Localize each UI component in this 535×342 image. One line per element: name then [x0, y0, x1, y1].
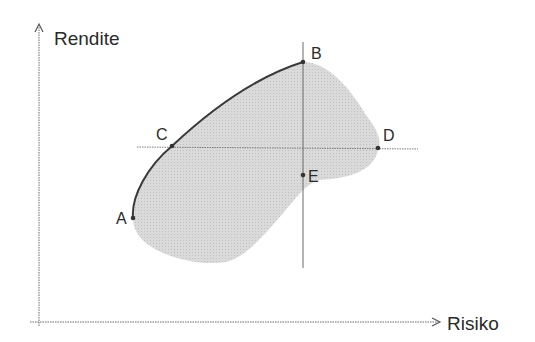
risk-return-diagram: Rendite Risiko A B C D E: [0, 0, 535, 342]
feasible-region: [133, 62, 380, 263]
point-d: [376, 146, 381, 151]
label-c: C: [156, 126, 168, 143]
label-e: E: [308, 168, 319, 185]
x-axis-label: Risiko: [447, 313, 499, 334]
point-a: [131, 216, 136, 221]
point-c: [170, 144, 175, 149]
label-b: B: [311, 45, 322, 62]
point-b: [301, 60, 306, 65]
point-e: [301, 173, 306, 178]
label-a: A: [116, 210, 127, 227]
label-d: D: [383, 127, 395, 144]
y-axis-label: Rendite: [54, 28, 120, 49]
